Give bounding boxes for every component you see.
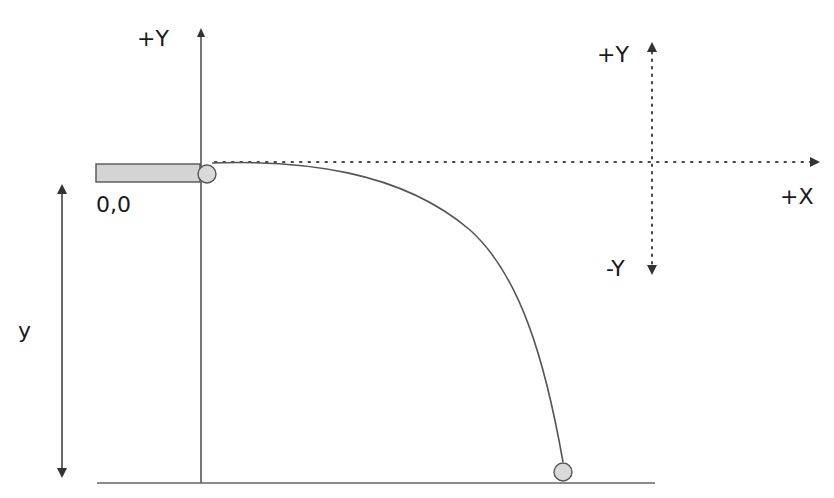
legend-y-axis <box>647 42 657 275</box>
origin-label: 0,0 <box>96 192 131 217</box>
height-down-arrow-icon <box>57 468 67 478</box>
legend-up-arrow-icon <box>647 42 657 52</box>
legend-minus-y-label: -Y <box>606 256 625 281</box>
trajectory-curve <box>212 163 563 462</box>
height-up-arrow-icon <box>57 184 67 194</box>
height-arrow <box>57 184 67 478</box>
ball-start <box>198 165 216 183</box>
legend-plus-y-label: +Y <box>597 42 629 67</box>
ball-end <box>554 463 572 481</box>
main-plus-y-label: +Y <box>137 26 169 51</box>
x-arrow-icon <box>810 157 820 167</box>
legend-down-arrow-icon <box>647 265 657 275</box>
ledge <box>96 164 200 182</box>
legend-plus-x-label: +X <box>780 184 814 209</box>
projectile-diagram: +Y 0,0 y +Y -Y +X <box>0 0 834 498</box>
height-label: y <box>18 318 31 343</box>
